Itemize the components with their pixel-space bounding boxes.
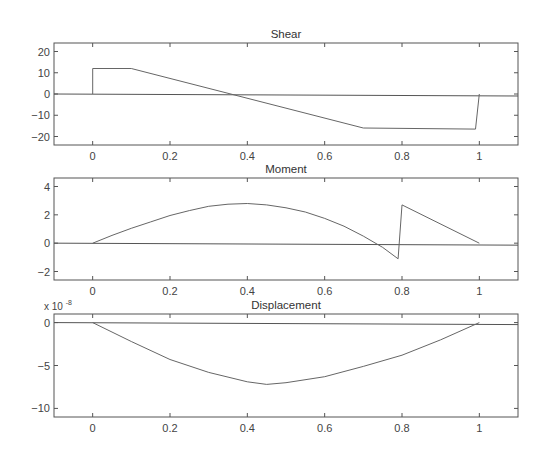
subplot-shear: Shear 00.20.40.60.8120100−10−20 — [31, 28, 518, 162]
figure: Shear 00.20.40.60.8120100−10−20 Moment 0… — [0, 0, 546, 470]
x-tick-label: 0.6 — [317, 150, 332, 162]
y-tick-label: 20 — [38, 46, 50, 58]
subplot-title: Displacement — [251, 299, 321, 311]
y-tick-label: 0 — [44, 317, 50, 329]
moment-curve — [93, 204, 480, 259]
subplot-displacement: Displacement x 10 -8 00.20.40.60.810−5−1… — [31, 299, 518, 434]
axes-box — [54, 314, 518, 417]
x-tick-label: 0.8 — [394, 285, 409, 297]
zero-line — [54, 323, 518, 325]
x-tick-label: 1 — [476, 285, 482, 297]
x-tick-label: 0.2 — [162, 422, 177, 434]
x-tick-label: 0.8 — [394, 422, 409, 434]
y-tick-label: −2 — [37, 266, 50, 278]
x-tick-label: 0.4 — [240, 150, 255, 162]
x-tick-label: 0.2 — [162, 150, 177, 162]
displacement-curve — [93, 323, 480, 385]
y-tick-label: −10 — [31, 109, 50, 121]
y-tick-label: −10 — [31, 402, 50, 414]
zero-line — [54, 243, 518, 245]
y-tick-label: 10 — [38, 67, 50, 79]
subplot-title: Shear — [271, 28, 302, 40]
subplot-title: Moment — [265, 163, 307, 175]
x-tick-label: 0 — [90, 285, 96, 297]
y-tick-label: −5 — [37, 360, 50, 372]
x-tick-label: 1 — [476, 422, 482, 434]
exponent-base: x 10 — [44, 301, 63, 312]
y-exponent-label: x 10 -8 — [44, 299, 72, 312]
x-tick-label: 1 — [476, 150, 482, 162]
x-tick-label: 0.4 — [240, 422, 255, 434]
x-tick-label: 0.4 — [240, 285, 255, 297]
x-tick-label: 0 — [90, 422, 96, 434]
x-tick-label: 0.8 — [394, 150, 409, 162]
zero-line — [54, 94, 518, 96]
subplot-moment: Moment 00.20.40.60.81420−2 — [37, 163, 518, 297]
y-tick-label: 0 — [44, 88, 50, 100]
exponent-power: -8 — [66, 299, 72, 306]
x-tick-label: 0.6 — [317, 285, 332, 297]
x-tick-label: 0.6 — [317, 422, 332, 434]
x-tick-label: 0.2 — [162, 285, 177, 297]
y-tick-label: 2 — [44, 209, 50, 221]
shear-curve — [93, 69, 480, 130]
y-tick-label: 0 — [44, 237, 50, 249]
x-tick-label: 0 — [90, 150, 96, 162]
axes-box — [54, 178, 518, 280]
y-tick-label: −20 — [31, 131, 50, 143]
y-tick-label: 4 — [44, 181, 50, 193]
